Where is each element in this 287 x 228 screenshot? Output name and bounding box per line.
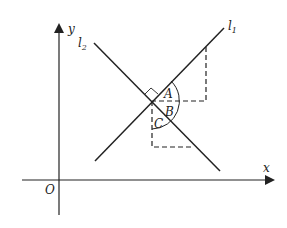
angle-b-label: B	[164, 105, 174, 119]
line-l1	[95, 28, 224, 161]
angle-a-label: A	[163, 87, 173, 101]
diagram-svg: y x O l1 l2 A B C	[0, 0, 287, 228]
y-axis-label: y	[67, 22, 75, 36]
line-l2	[94, 43, 220, 171]
y-arrow-icon	[54, 23, 64, 33]
diagram: y x O l1 l2 A B C	[0, 0, 287, 228]
l1-label: l1	[228, 19, 237, 35]
right-angle-mark	[145, 88, 158, 94]
angle-c-label: C	[154, 117, 163, 131]
l2-label: l2	[78, 36, 87, 52]
x-axis-label: x	[263, 161, 270, 175]
x-arrow-icon	[265, 175, 275, 185]
origin-label: O	[45, 183, 55, 197]
